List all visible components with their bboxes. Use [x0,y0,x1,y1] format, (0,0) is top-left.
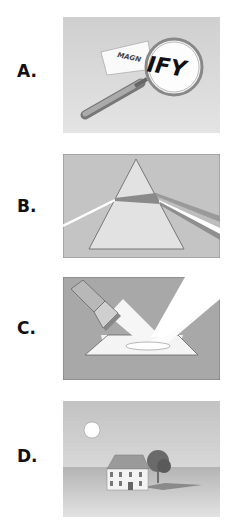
option-c-image-mirror[interactable] [63,277,220,380]
option-a-label: A. [17,61,37,81]
sun-icon [84,422,100,438]
option-b-label: B. [17,196,36,216]
prism-illustration [63,154,220,258]
option-b-image-prism[interactable] [63,154,220,258]
option-d-image-sun-house[interactable] [63,401,220,517]
magnifier-lens: IFY [145,39,202,95]
option-a-image-magnifier[interactable]: MAGN IFY [63,17,220,133]
magnifying-glass-illustration: MAGN IFY [63,17,220,133]
option-c-label: C. [17,318,36,338]
house [107,455,149,490]
mirror-reflection-illustration [63,277,220,380]
sun-house-illustration [63,401,220,517]
option-d-label: D. [17,446,38,466]
